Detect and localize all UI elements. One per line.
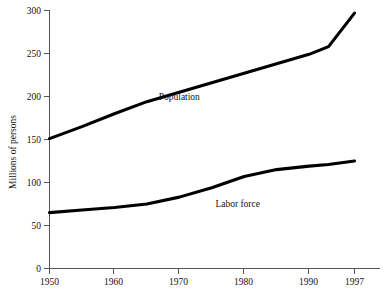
x-tick-label: 1990 — [299, 277, 318, 287]
x-tick-label: 1960 — [104, 277, 123, 287]
y-tick-label: 50 — [32, 221, 42, 231]
y-tick-label: 250 — [27, 49, 42, 59]
y-tick-label: 100 — [27, 178, 42, 188]
y-axis-tick-labels: 300 250 200 150 100 50 0 — [27, 6, 42, 274]
y-tick-label: 0 — [36, 264, 41, 274]
chart-canvas: 300 250 200 150 100 50 0 1950 1960 1970 … — [0, 0, 388, 295]
x-tick-label: 1980 — [234, 277, 253, 287]
y-axis-title: Millions of persons — [8, 115, 18, 189]
series-annotation-labor-force: Labor force — [215, 199, 260, 209]
x-axis-tick-labels: 1950 1960 1970 1980 1990 1997 — [40, 277, 364, 287]
y-tick-label: 150 — [27, 135, 42, 145]
x-tick-label: 1970 — [169, 277, 188, 287]
x-tick-label: 1950 — [40, 277, 59, 287]
series-line-labor-force — [50, 161, 355, 213]
series-line-population — [50, 13, 355, 139]
x-tick-label: 1997 — [345, 277, 364, 287]
y-tick-label: 200 — [27, 92, 42, 102]
y-tick-label: 300 — [27, 6, 42, 16]
series-annotation-population: Population — [159, 92, 200, 102]
line-chart-figure: 300 250 200 150 100 50 0 1950 1960 1970 … — [0, 0, 388, 295]
x-axis-ticks — [50, 269, 355, 275]
